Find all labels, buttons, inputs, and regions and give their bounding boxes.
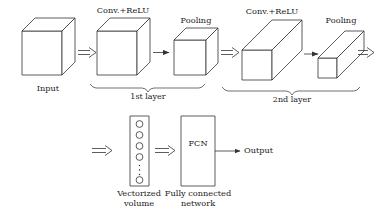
cnn-architecture-figure: Conv.+ReLU Pooling Conv.+ReLU Pooling In… bbox=[0, 0, 378, 218]
vectorized-volume-caption-line1: Vectorized bbox=[117, 189, 161, 198]
vector-column-icon bbox=[130, 116, 149, 186]
stage-label-pool1: Pooling bbox=[181, 16, 212, 25]
double-arrow-icon-4 bbox=[92, 146, 112, 156]
double-arrow-icon-5 bbox=[155, 146, 175, 156]
brace-first-layer bbox=[90, 84, 205, 92]
fcn-box-icon bbox=[181, 116, 215, 186]
diagram-canvas bbox=[0, 0, 378, 218]
input-cube-icon bbox=[22, 18, 75, 75]
stage-label-conv2: Conv.+ReLU bbox=[246, 7, 298, 16]
conv1-cube-icon bbox=[97, 18, 150, 75]
fcn-caption-line2: network bbox=[181, 199, 215, 208]
stage-label-pool2: Pooling bbox=[326, 16, 357, 25]
vectorized-volume-caption-line2: volume bbox=[124, 199, 154, 208]
input-label: Input bbox=[37, 84, 59, 93]
output-label: Output bbox=[244, 146, 273, 155]
brace-second-layer bbox=[222, 87, 360, 95]
fcn-caption-line1: Fully connected bbox=[165, 189, 231, 198]
brace-label-first-layer: 1st layer bbox=[130, 93, 165, 102]
double-arrow-icon-1 bbox=[78, 48, 96, 58]
conv2-long-box-icon bbox=[242, 20, 302, 80]
brace-label-second-layer: 2nd layer bbox=[273, 96, 311, 105]
pool1-cube-icon bbox=[174, 28, 218, 75]
stage-label-conv1: Conv.+ReLU bbox=[97, 6, 149, 15]
pool2-long-box-icon bbox=[318, 31, 364, 78]
fcn-box-label: FCN bbox=[188, 139, 207, 148]
double-arrow-icon-2 bbox=[221, 48, 239, 58]
